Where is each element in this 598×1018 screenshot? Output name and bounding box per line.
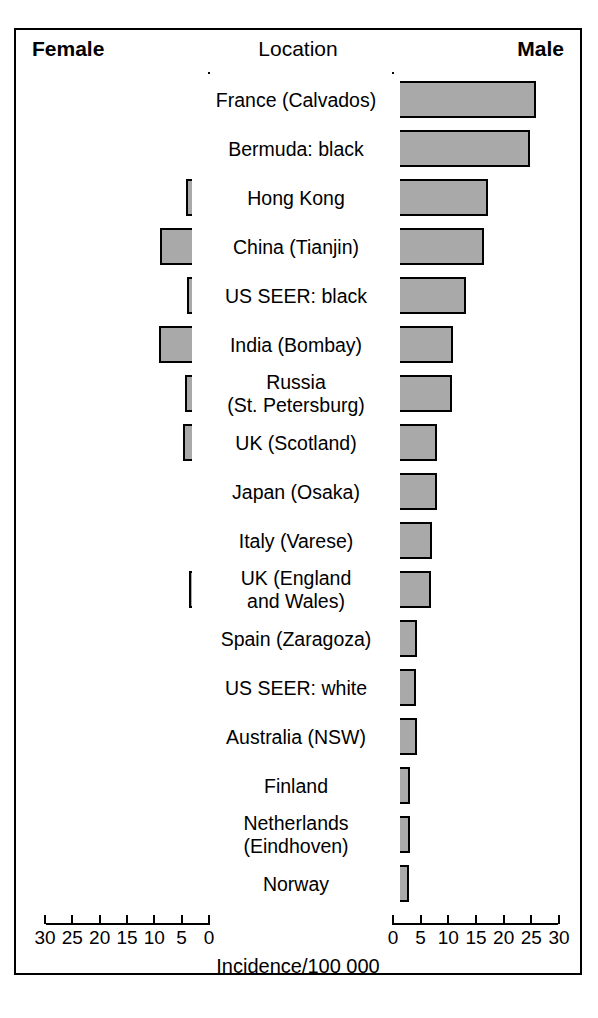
female-axis-tick <box>44 915 46 924</box>
row-label: Spain (Zaragoza) <box>192 613 400 665</box>
female-axis-tick <box>181 915 183 924</box>
row-label: US SEER: black <box>192 270 400 322</box>
row-label-text: Bermuda: black <box>228 138 363 160</box>
plot-area: France (Calvados)Bermuda: blackHong Kong… <box>16 72 580 905</box>
female-axis-tick-label: 25 <box>62 927 83 949</box>
row-label-text: US SEER: white <box>225 677 367 699</box>
male-axis-tick-label: 25 <box>521 927 542 949</box>
chart-frame: Female Location Male France (Calvados)Be… <box>14 28 582 975</box>
female-axis-tick <box>126 915 128 924</box>
row-label: Hong Kong <box>192 172 400 224</box>
row-label: Norway <box>192 858 400 910</box>
row-label-text: Netherlands(Eindhoven) <box>243 812 348 858</box>
row-label-text: China (Tianjin) <box>233 236 359 258</box>
male-bar <box>392 81 536 118</box>
male-axis-tick <box>503 915 505 924</box>
row-label: US SEER: white <box>192 662 400 714</box>
row-label-text: France (Calvados) <box>216 89 376 111</box>
location-column-header: Location <box>16 37 580 61</box>
chart-row: Norway <box>16 858 580 910</box>
row-label: UK (Englandand Wales) <box>192 564 400 616</box>
female-axis-tick-label: 30 <box>34 927 55 949</box>
row-label-text: Spain (Zaragoza) <box>221 628 372 650</box>
male-axis-tick <box>558 915 560 924</box>
male-axis-tick <box>420 915 422 924</box>
male-bar <box>392 277 466 314</box>
row-label-text: Russia(St. Petersburg) <box>227 371 365 417</box>
row-label-text: India (Bombay) <box>230 334 362 356</box>
row-label-text: Hong Kong <box>247 187 345 209</box>
row-label: India (Bombay) <box>192 319 400 371</box>
chart-row: US SEER: white <box>16 662 580 714</box>
row-label: UK (Scotland) <box>192 417 400 469</box>
male-axis-tick <box>530 915 532 924</box>
female-axis-tick-label: 20 <box>89 927 110 949</box>
chart-row: Australia (NSW) <box>16 711 580 763</box>
row-label: Finland <box>192 760 400 812</box>
figure: Female Location Male France (Calvados)Be… <box>0 0 598 1018</box>
male-axis-tick-label: 10 <box>438 927 459 949</box>
female-axis-tick-label: 15 <box>116 927 137 949</box>
row-label: Italy (Varese) <box>192 515 400 567</box>
chart-row: Finland <box>16 760 580 812</box>
chart-row: India (Bombay) <box>16 319 580 371</box>
row-label: Japan (Osaka) <box>192 466 400 518</box>
chart-row: US SEER: black <box>16 270 580 322</box>
row-label: Bermuda: black <box>192 123 400 175</box>
male-bar <box>392 228 484 265</box>
chart-row: Japan (Osaka) <box>16 466 580 518</box>
chart-row: China (Tianjin) <box>16 221 580 273</box>
female-axis-tick-label: 0 <box>204 927 215 949</box>
male-axis-tick-label: 30 <box>548 927 569 949</box>
row-label-text: Finland <box>264 775 328 797</box>
chart-row: Hong Kong <box>16 172 580 224</box>
female-axis-tick <box>208 915 210 924</box>
chart-row: Spain (Zaragoza) <box>16 613 580 665</box>
male-axis-tick <box>392 915 394 924</box>
male-axis-tick-label: 15 <box>465 927 486 949</box>
male-bar <box>392 375 452 412</box>
male-axis-tick-label: 0 <box>388 927 399 949</box>
row-label-text: Norway <box>263 873 329 895</box>
chart-row: Netherlands(Eindhoven) <box>16 809 580 861</box>
chart-row: Italy (Varese) <box>16 515 580 567</box>
chart-header: Female Location Male <box>16 30 580 72</box>
chart-row: France (Calvados) <box>16 74 580 126</box>
male-axis-tick <box>447 915 449 924</box>
row-label: Russia(St. Petersburg) <box>192 368 400 420</box>
row-label: Netherlands(Eindhoven) <box>192 809 400 861</box>
chart-row: Bermuda: black <box>16 123 580 175</box>
female-axis-tick <box>153 915 155 924</box>
chart-row: Russia(St. Petersburg) <box>16 368 580 420</box>
male-axis-tick-label: 5 <box>415 927 426 949</box>
x-axis-group: 302520151050051015202530 <box>16 905 580 945</box>
female-axis-tick <box>71 915 73 924</box>
row-label-text: Japan (Osaka) <box>232 481 360 503</box>
row-label-text: Italy (Varese) <box>239 530 354 552</box>
female-axis-tick <box>99 915 101 924</box>
male-axis-tick-label: 20 <box>493 927 514 949</box>
male-axis-tick <box>475 915 477 924</box>
female-axis-tick-label: 5 <box>176 927 187 949</box>
row-label: China (Tianjin) <box>192 221 400 273</box>
row-label-text: US SEER: black <box>225 285 367 307</box>
female-axis-tick-label: 10 <box>144 927 165 949</box>
male-bar <box>392 326 453 363</box>
male-bar <box>392 130 530 167</box>
male-bar <box>392 179 488 216</box>
chart-row: UK (Scotland) <box>16 417 580 469</box>
row-label-text: Australia (NSW) <box>226 726 366 748</box>
chart-row: UK (Englandand Wales) <box>16 564 580 616</box>
row-label-text: UK (Englandand Wales) <box>241 567 352 613</box>
row-label-text: UK (Scotland) <box>235 432 356 454</box>
x-axis-label: Incidence/100 000 <box>16 955 580 978</box>
row-label: Australia (NSW) <box>192 711 400 763</box>
row-label: France (Calvados) <box>192 74 400 126</box>
male-column-header: Male <box>517 37 564 61</box>
